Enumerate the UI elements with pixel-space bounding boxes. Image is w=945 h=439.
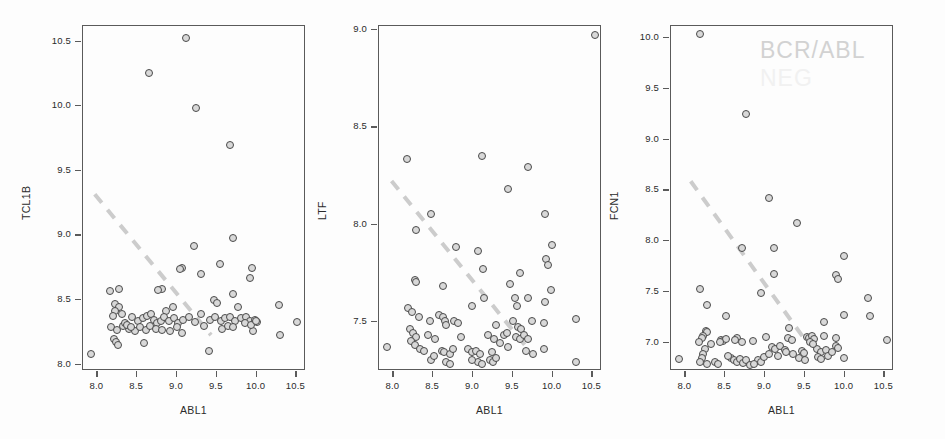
data-point <box>801 356 809 364</box>
data-point <box>809 340 817 348</box>
data-point <box>722 312 730 320</box>
x-tick-mark <box>764 371 765 377</box>
data-point <box>770 270 778 278</box>
y-tick-mark <box>663 37 669 38</box>
y-tick-label: 10.0 <box>622 31 659 42</box>
x-tick-label: 8.0 <box>664 380 704 391</box>
y-tick-label: 7.5 <box>622 285 659 296</box>
data-point <box>866 312 874 320</box>
y-tick-mark <box>663 291 669 292</box>
data-point <box>765 350 773 358</box>
data-point <box>788 336 796 344</box>
data-point <box>714 360 722 368</box>
data-point <box>738 338 746 346</box>
data-point <box>864 294 872 302</box>
x-tick-mark <box>724 371 725 377</box>
data-point <box>883 336 891 344</box>
data-point <box>757 289 765 297</box>
data-point <box>832 334 840 342</box>
x-tick-mark <box>684 371 685 377</box>
data-point <box>762 333 770 341</box>
y-tick-label: 8.0 <box>622 234 659 245</box>
data-point <box>840 354 848 362</box>
x-tick-label: 10.0 <box>824 380 864 391</box>
data-point <box>749 337 757 345</box>
data-point <box>695 338 703 346</box>
y-tick-mark <box>663 88 669 89</box>
data-point <box>696 30 704 38</box>
y-tick-label: 8.5 <box>622 183 659 194</box>
x-tick-label: 9.0 <box>744 380 784 391</box>
y-axis-label: FCN1 <box>608 191 620 220</box>
data-point <box>742 110 750 118</box>
y-tick-label: 9.5 <box>622 82 659 93</box>
data-point <box>696 285 704 293</box>
data-point <box>750 360 758 368</box>
data-point <box>789 350 797 358</box>
data-point <box>703 301 711 309</box>
watermark-group-label-primary: BCR/ABL <box>760 37 865 64</box>
data-point <box>774 352 782 360</box>
data-point <box>765 194 773 202</box>
data-point <box>770 244 778 252</box>
watermark-group-label-secondary: NEG <box>760 65 813 92</box>
data-point <box>820 318 828 326</box>
x-axis-label: ABL1 <box>670 404 893 416</box>
data-point <box>840 311 848 319</box>
data-point <box>828 348 836 356</box>
y-tick-mark <box>663 139 669 140</box>
data-point <box>840 252 848 260</box>
x-tick-mark <box>844 371 845 377</box>
data-point <box>731 336 739 344</box>
data-point <box>716 338 724 346</box>
data-point <box>738 244 746 252</box>
y-tick-label: 7.0 <box>622 336 659 347</box>
x-tick-mark <box>883 371 884 377</box>
x-tick-label: 8.5 <box>704 380 744 391</box>
x-tick-label: 10.5 <box>863 380 903 391</box>
data-point <box>703 360 711 368</box>
y-tick-mark <box>663 240 669 241</box>
data-point <box>793 219 801 227</box>
x-tick-label: 9.5 <box>784 380 824 391</box>
x-tick-mark <box>804 371 805 377</box>
figure-scatter-panels: 8.08.59.09.510.010.58.08.59.09.510.010.5… <box>0 0 945 439</box>
data-point <box>820 332 828 340</box>
data-point <box>724 352 732 360</box>
y-tick-label: 9.0 <box>622 133 659 144</box>
y-tick-mark <box>663 342 669 343</box>
data-point <box>785 324 793 332</box>
y-tick-mark <box>663 189 669 190</box>
data-point <box>834 275 842 283</box>
data-point <box>675 355 683 363</box>
